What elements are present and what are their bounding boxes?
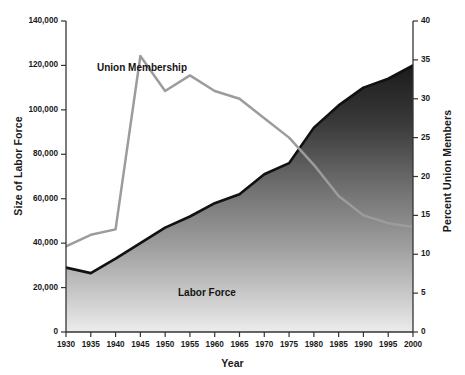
x-axis-tick-label: 2000 [396,340,430,349]
y-axis-left-tick-label: 20,000 [12,283,58,292]
series-label-union-membership: Union Membership [97,62,187,73]
y-axis-right-tick-label: 35 [421,55,451,64]
y-axis-left-tick-label: 60,000 [12,194,58,203]
x-axis-ticks [66,332,413,337]
y-axis-right-tick-label: 5 [421,288,451,297]
y-axis-left-tick-label: 140,000 [12,16,58,25]
chart-container: Size of Labor Force Percent Union Member… [0,0,465,375]
y-axis-right-tick-label: 0 [421,327,451,336]
y-axis-left-title: Size of Labor Force [12,96,24,236]
y-axis-left-tick-label: 40,000 [12,238,58,247]
y-axis-left-tick-label: 100,000 [12,105,58,114]
y-axis-right-tick-label: 25 [421,133,451,142]
y-axis-right-ticks [413,21,418,332]
y-axis-left-ticks [61,21,66,332]
y-axis-left-tick-label: 120,000 [12,60,58,69]
y-axis-right-tick-label: 15 [421,210,451,219]
y-axis-left-tick-label: 80,000 [12,149,58,158]
y-axis-right-tick-label: 40 [421,16,451,25]
chart-canvas [0,0,465,375]
y-axis-left-tick-label: 0 [12,327,58,336]
y-axis-right-tick-label: 10 [421,249,451,258]
y-axis-right-tick-label: 20 [421,172,451,181]
series-label-labor-force: Labor Force [178,287,236,298]
y-axis-right-tick-label: 30 [421,94,451,103]
x-axis-title: Year [0,357,465,369]
